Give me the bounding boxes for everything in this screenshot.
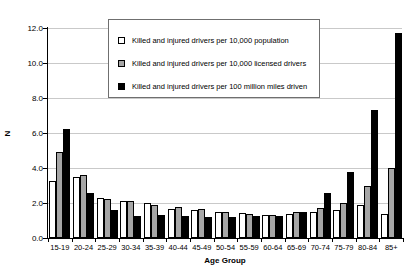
bar [151,205,158,238]
x-tick-label: 20-24 [72,243,96,252]
y-axis-title: N [3,125,12,143]
bar [317,208,324,238]
bar [104,199,111,238]
x-tick-mark [214,238,215,242]
bar [127,201,134,238]
bar [293,212,300,238]
x-axis-title: Age Group [47,256,403,265]
x-tick-label: 60-64 [261,243,285,252]
x-tick-label: 85+ [379,243,403,252]
bar [371,110,378,238]
legend-swatch-icon [118,83,125,90]
x-tick-mark [166,238,167,242]
x-tick-label: 70-74 [308,243,332,252]
y-tick-label: 8.0 [3,94,43,103]
x-tick-label: 15-19 [48,243,72,252]
bar [215,212,222,238]
bar [324,193,331,239]
bar [300,212,307,238]
y-tick-label: 2.0 [3,199,43,208]
bar [262,215,269,238]
bar-group [379,28,403,238]
x-axis-ticks [48,238,403,242]
legend-item: Killed and injured drivers per 100 milli… [118,75,319,98]
bar [222,212,229,238]
x-tick-label: 30-34 [119,243,143,252]
x-axis-labels: 15-1920-2425-2930-3435-3940-4445-4950-54… [48,243,403,252]
bar [253,216,260,238]
bar [381,214,388,239]
bar [229,217,236,238]
x-tick-label: 55-59 [237,243,261,252]
legend-label: Killed and injured drivers per 10,000 li… [132,59,306,68]
y-tick-label: 10.0 [3,59,43,68]
x-tick-mark [403,238,404,242]
x-tick-mark [285,238,286,242]
bar [175,207,182,238]
bar [310,212,317,238]
bar [168,209,175,238]
x-tick-mark [261,238,262,242]
x-tick-label: 80-84 [356,243,380,252]
x-tick-label: 25-29 [95,243,119,252]
bar [80,175,87,238]
bar [144,203,151,238]
bar [63,129,70,238]
x-tick-mark [356,238,357,242]
bar [340,203,347,238]
bar [198,209,205,238]
bar [246,214,253,239]
x-tick-mark [119,238,120,242]
legend-item: Killed and injured drivers per 10,000 li… [118,52,319,75]
bar [120,201,127,238]
bar-group [48,28,72,238]
legend-label: Killed and injured drivers per 10,000 po… [132,36,289,45]
x-tick-label: 40-44 [166,243,190,252]
bar [347,172,354,239]
x-tick-mark [237,238,238,242]
bar [269,215,276,238]
x-tick-label: 45-49 [190,243,214,252]
x-tick-mark [143,238,144,242]
bar [56,152,63,238]
legend-swatch-icon [118,60,125,67]
bar [205,217,212,238]
legend-item: Killed and injured drivers per 10,000 po… [118,29,319,52]
bar [276,216,283,238]
x-tick-mark [332,238,333,242]
bar [97,198,104,238]
bar [191,210,198,238]
bar [286,214,293,239]
y-tick-label: 12.0 [3,24,43,33]
bar [87,193,94,239]
bar-group [332,28,356,238]
bar-group [356,28,380,238]
bar [134,216,141,238]
bar [111,210,118,238]
bar [73,177,80,238]
x-tick-mark [379,238,380,242]
bar [395,33,402,238]
bar-chart: 0.02.04.06.08.010.012.0 15-1920-2425-293… [0,0,410,273]
legend-label: Killed and injured drivers per 100 milli… [132,82,307,91]
y-tick-label: 4.0 [3,164,43,173]
chart-legend: Killed and injured drivers per 10,000 po… [108,19,320,98]
x-tick-mark [48,238,49,242]
x-tick-mark [95,238,96,242]
x-tick-label: 35-39 [143,243,167,252]
bar [333,210,340,238]
legend-swatch-icon [118,37,125,44]
bar [239,213,246,238]
bar [182,216,189,238]
x-tick-label: 65-69 [285,243,309,252]
y-tick-label: 0.0 [3,234,43,243]
x-tick-label: 50-54 [214,243,238,252]
bar [388,168,395,238]
bar-group [72,28,96,238]
bar [364,186,371,239]
bar [49,181,56,238]
x-tick-label: 75-79 [332,243,356,252]
bar [158,215,165,238]
bar [357,205,364,238]
x-tick-mark [72,238,73,242]
